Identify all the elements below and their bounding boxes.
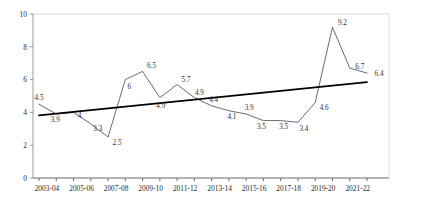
y-tick-label: 0	[23, 174, 27, 183]
data-series-line	[39, 27, 367, 137]
data-point-label: 6	[128, 83, 132, 91]
x-tick-label: 2007-08	[104, 184, 129, 193]
chart-canvas: 0246810 2003-042005-062007-082009-102011…	[0, 0, 422, 206]
data-point-label: 4.6	[320, 104, 329, 112]
x-tick-label: 2021-22	[345, 184, 370, 193]
data-point-label: 9.2	[338, 19, 347, 27]
data-point-label: 4.4	[209, 96, 218, 104]
y-tick-label: 6	[23, 75, 27, 84]
data-point-label: 4.5	[35, 94, 44, 102]
data-point-label: 4.1	[227, 113, 236, 121]
data-point-label: 3.5	[257, 123, 266, 131]
x-tick-label: 2019-20	[311, 184, 336, 193]
data-point-labels: 4.53.943.32.566.54.95.74.94.44.13.93.53.…	[35, 19, 384, 147]
data-point-label: 6.5	[147, 62, 156, 70]
data-point-label: 4.9	[156, 102, 165, 110]
y-tick-label: 2	[23, 141, 27, 150]
y-tick-label: 4	[23, 108, 27, 117]
data-point-label: 6.7	[355, 63, 364, 71]
data-point-label: 2.5	[113, 139, 122, 147]
data-point-label: 4.9	[195, 89, 204, 97]
x-axis: 2003-042005-062007-082009-102011-122013-…	[33, 178, 389, 193]
data-point-label: 3.9	[245, 104, 254, 112]
y-tick-label: 10	[20, 10, 28, 19]
x-tick-label: 2013-14	[207, 184, 232, 193]
trendline	[39, 82, 367, 115]
data-point-label: 5.7	[182, 76, 191, 84]
y-axis: 0246810	[20, 10, 33, 183]
data-point-label: 3.5	[279, 123, 288, 131]
data-point-label: 3.9	[51, 116, 60, 124]
data-point-label: 4	[78, 112, 82, 120]
data-point-label: 6.4	[375, 70, 384, 78]
line-chart: 0246810 2003-042005-062007-082009-102011…	[0, 0, 422, 206]
x-tick-label: 2005-06	[69, 184, 94, 193]
data-point-label: 3.4	[299, 125, 308, 133]
x-tick-label: 2003-04	[35, 184, 60, 193]
x-tick-label: 2011-12	[173, 184, 198, 193]
x-tick-label: 2017-18	[276, 184, 301, 193]
x-tick-label: 2009-10	[138, 184, 163, 193]
data-point-label: 3.3	[93, 125, 102, 133]
y-tick-label: 8	[23, 43, 27, 52]
x-tick-label: 2015-16	[242, 184, 267, 193]
